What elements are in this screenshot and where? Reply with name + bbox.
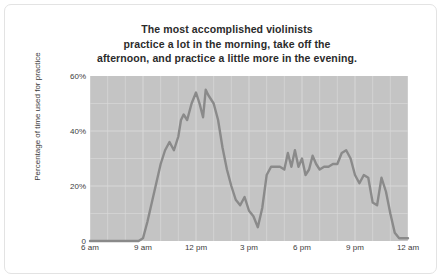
x-tick-label: 12 am: [385, 243, 431, 252]
x-axis-ticks: 6 am9 am12 pm3 pm6 pm9 pm12 am: [90, 243, 408, 257]
chart-figure: The most accomplished violinists practic…: [0, 0, 441, 278]
chart-title-line-3: afternoon, and practice a little more in…: [52, 51, 402, 66]
x-tick-label: 9 am: [120, 243, 166, 252]
y-axis-ticks: 020%40%60%: [48, 76, 86, 241]
x-tick-label: 3 pm: [226, 243, 272, 252]
y-tick-label: 40%: [50, 127, 86, 136]
x-tick-label: 6 am: [67, 243, 113, 252]
plot-area: [90, 76, 408, 241]
x-tick-label: 12 pm: [173, 243, 219, 252]
chart-title: The most accomplished violinists practic…: [52, 22, 402, 66]
x-tick-label: 6 pm: [279, 243, 325, 252]
chart-title-line-2: practice a lot in the morning, take off …: [52, 37, 402, 52]
y-tick-label: 20%: [50, 182, 86, 191]
y-tick-label: 60%: [50, 72, 86, 81]
y-axis-label: Percentage of time used for practice: [33, 37, 42, 197]
x-tick-label: 9 pm: [332, 243, 378, 252]
chart-title-line-1: The most accomplished violinists: [52, 22, 402, 37]
practice-time-line-series: [90, 76, 408, 241]
